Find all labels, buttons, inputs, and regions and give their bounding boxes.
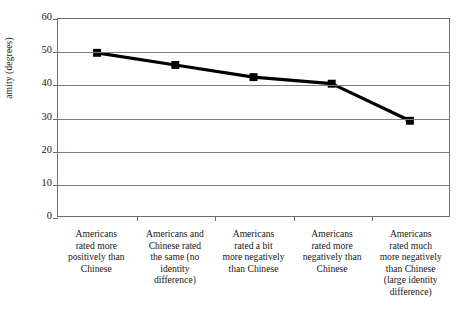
x-axis-category-label-line: than Chinese [216, 263, 291, 275]
x-axis-category-label-line: negatively than [295, 251, 370, 263]
gridline [58, 85, 449, 86]
y-axis-tick-label: 40 [26, 78, 52, 89]
gridline [58, 185, 449, 186]
y-axis-tick-label: 30 [26, 112, 52, 123]
x-axis-category-label: Americansrated a bitmore negativelythan … [214, 228, 293, 319]
y-axis-title-text: amity (degrees) [4, 0, 14, 138]
data-point-marker [171, 61, 179, 69]
x-axis-tick-mark [372, 216, 373, 221]
y-axis-tick-mark [53, 52, 58, 53]
y-axis-tick-mark [53, 19, 58, 20]
gridline [58, 52, 449, 53]
x-axis-category-label-line: Americans [59, 228, 134, 240]
y-axis-tick-label: 60 [26, 12, 52, 23]
x-axis-tick-mark [215, 216, 216, 221]
y-axis-tick-mark [53, 85, 58, 86]
x-axis-category-label-line: more negatively [216, 251, 291, 263]
x-axis-category-label: Americansrated morenegatively thanChines… [293, 228, 372, 319]
x-axis-category-label-line: more negatively [373, 251, 448, 263]
x-axis-category-label: Americans andChinese ratedthe same (noid… [136, 228, 215, 319]
x-axis-category-label-line: Chinese [59, 263, 134, 275]
x-axis-category-label-line: than Chinese [373, 263, 448, 275]
x-axis-category-label-line: identity [138, 263, 213, 275]
x-axis-category-label-line: difference) [373, 286, 448, 298]
y-axis-tick-mark [53, 185, 58, 186]
x-axis-category-label-line: (large identity [373, 274, 448, 286]
x-axis-category-label-line: rated much [373, 240, 448, 252]
x-axis-category-label-line: the same (no [138, 251, 213, 263]
x-axis-category-label: Americansrated muchmore negativelythan C… [371, 228, 450, 319]
x-axis-category-label-line: rated more [59, 240, 134, 252]
y-axis-tick-mark [53, 152, 58, 153]
x-axis-tick-mark [294, 216, 295, 221]
x-axis-category-label-line: rated more [295, 240, 370, 252]
x-axis-category-label-line: Americans [373, 228, 448, 240]
y-axis-tick-label: 10 [26, 178, 52, 189]
y-axis-title: amity (degrees) [4, 0, 20, 76]
x-axis-category-label-line: rated a bit [216, 240, 291, 252]
series-line [97, 53, 410, 121]
x-axis-category-label-line: positively than [59, 251, 134, 263]
x-axis-category-label-line: Chinese rated [138, 240, 213, 252]
y-axis-tick-mark [53, 218, 58, 219]
y-axis-tick-label: 0 [26, 211, 52, 222]
y-axis-tick-mark [53, 119, 58, 120]
y-axis-tick-label: 50 [26, 45, 52, 56]
x-axis-category-label-line: difference) [138, 274, 213, 286]
data-series-amity [58, 19, 449, 216]
x-axis-category-label-line: Americans [216, 228, 291, 240]
x-axis-category-label-line: Chinese [295, 263, 370, 275]
x-axis-category-labels: Americansrated morepositively thanChines… [57, 228, 450, 319]
gridline [58, 152, 449, 153]
x-axis-category-label-line: Americans [295, 228, 370, 240]
data-point-marker [328, 80, 336, 88]
gridline [58, 119, 449, 120]
data-point-marker [250, 73, 258, 81]
x-axis-tick-mark [137, 216, 138, 221]
x-axis-category-label-line: Americans and [138, 228, 213, 240]
line-chart: amity (degrees) 0102030405060 Americansr… [0, 0, 468, 319]
y-axis-tick-labels: 0102030405060 [22, 0, 52, 319]
plot-area [57, 18, 450, 217]
x-axis-category-label: Americansrated morepositively thanChines… [57, 228, 136, 319]
y-axis-tick-label: 20 [26, 145, 52, 156]
